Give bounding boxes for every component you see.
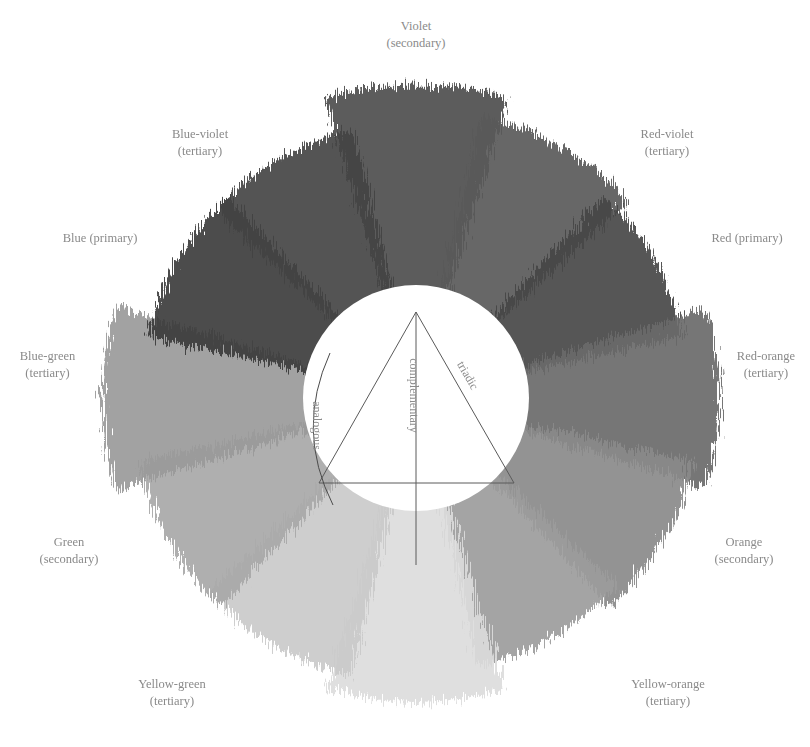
- label-green-name: Green: [19, 534, 119, 551]
- label-red: Red (primary): [697, 230, 797, 247]
- label-green: Green (secondary): [19, 534, 119, 568]
- label-yellow-green-type: (tertiary): [117, 693, 227, 710]
- label-blue-green: Blue-green (tertiary): [5, 348, 90, 382]
- label-violet-name: Violet: [366, 18, 466, 35]
- label-red-text: Red (primary): [697, 230, 797, 247]
- label-complementary: complementary: [406, 358, 421, 433]
- label-green-type: (secondary): [19, 551, 119, 568]
- label-blue-green-name: Blue-green: [5, 348, 90, 365]
- label-yellow-green-name: Yellow-green: [117, 676, 227, 693]
- label-blue-green-type: (tertiary): [5, 365, 90, 382]
- label-violet-type: (secondary): [366, 35, 466, 52]
- label-analogous: analogous: [309, 401, 324, 450]
- label-red-orange: Red-orange (tertiary): [726, 348, 806, 382]
- label-red-violet-name: Red-violet: [617, 126, 717, 143]
- label-red-orange-name: Red-orange: [726, 348, 806, 365]
- label-orange-type: (secondary): [694, 551, 794, 568]
- label-blue-violet-type: (tertiary): [145, 143, 255, 160]
- label-blue-violet-name: Blue-violet: [145, 126, 255, 143]
- label-yellow-green: Yellow-green (tertiary): [117, 676, 227, 710]
- label-red-orange-type: (tertiary): [726, 365, 806, 382]
- label-yellow-orange-name: Yellow-orange: [608, 676, 728, 693]
- label-blue-violet: Blue-violet (tertiary): [145, 126, 255, 160]
- label-blue-text: Blue (primary): [45, 230, 155, 247]
- label-blue: Blue (primary): [45, 230, 155, 247]
- label-red-violet: Red-violet (tertiary): [617, 126, 717, 160]
- label-violet: Violet (secondary): [366, 18, 466, 52]
- label-yellow-orange: Yellow-orange (tertiary): [608, 676, 728, 710]
- label-red-violet-type: (tertiary): [617, 143, 717, 160]
- label-orange-name: Orange: [694, 534, 794, 551]
- label-yellow-orange-type: (tertiary): [608, 693, 728, 710]
- label-orange: Orange (secondary): [694, 534, 794, 568]
